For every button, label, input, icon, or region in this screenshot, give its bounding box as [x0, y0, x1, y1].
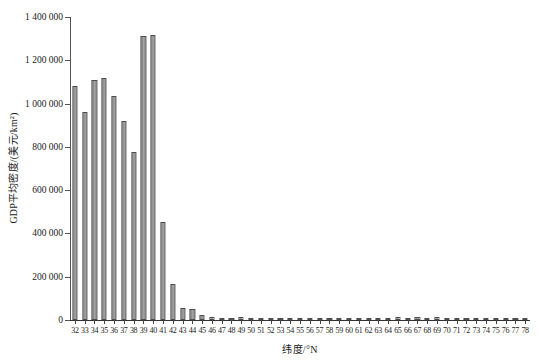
bar-slot: [139, 17, 149, 320]
x-axis-tick-label: 65: [394, 325, 401, 336]
x-axis-tick-label: 66: [404, 325, 411, 336]
x-axis-tick-label: 39: [140, 325, 147, 336]
x-axis-tick: [251, 320, 252, 324]
y-axis-tick-label: 800 000: [32, 142, 63, 152]
x-axis-tick-label: 51: [257, 325, 264, 336]
x-axis-tick-label: 56: [306, 325, 313, 336]
bar[interactable]: [170, 284, 175, 320]
bar-slot: [276, 17, 286, 320]
y-axis-tick: [65, 104, 70, 105]
bar[interactable]: [111, 96, 116, 320]
x-axis-tick: [417, 320, 418, 324]
x-axis-tick: [153, 320, 154, 324]
bar-slot: [148, 17, 158, 320]
x-axis-tick: [75, 320, 76, 324]
x-axis-tick-label: 63: [375, 325, 382, 336]
bar-slot: [334, 17, 344, 320]
y-axis-tick-label: 1 200 000: [25, 55, 63, 65]
x-axis-tick: [466, 320, 467, 324]
x-axis-tick: [104, 320, 105, 324]
x-axis-tick-label: 36: [110, 325, 117, 336]
bar[interactable]: [102, 78, 107, 320]
bar[interactable]: [92, 80, 97, 320]
x-axis-tick-label: 70: [443, 325, 450, 336]
bar[interactable]: [160, 222, 165, 320]
bar-slot: [178, 17, 188, 320]
x-axis-tick-label: 72: [463, 325, 470, 336]
y-axis-tick: [65, 60, 70, 61]
bar[interactable]: [121, 121, 126, 320]
x-axis-tick-label: 40: [149, 325, 156, 336]
bar-slot: [70, 17, 80, 320]
x-axis-tick: [212, 320, 213, 324]
x-axis-tick: [114, 320, 115, 324]
x-axis-tick-label: 43: [179, 325, 186, 336]
bar-slot: [305, 17, 315, 320]
bar[interactable]: [131, 152, 136, 320]
bar-slot: [119, 17, 129, 320]
x-axis-tick-label: 42: [169, 325, 176, 336]
bar-slot: [442, 17, 452, 320]
bar[interactable]: [180, 308, 185, 320]
y-axis-tick-label: 1 400 000: [25, 12, 63, 22]
bar[interactable]: [190, 309, 195, 320]
x-axis-tick: [271, 320, 272, 324]
x-axis-tick: [369, 320, 370, 324]
bar-slot: [422, 17, 432, 320]
x-axis-tick-label: 54: [287, 325, 294, 336]
x-axis-tick: [134, 320, 135, 324]
x-axis-tick: [222, 320, 223, 324]
bar-slot: [324, 17, 334, 320]
bar-slot: [129, 17, 139, 320]
bar[interactable]: [72, 86, 77, 320]
x-axis-tick-label: 38: [130, 325, 137, 336]
bar-slot: [315, 17, 325, 320]
bar-slot: [481, 17, 491, 320]
x-axis-tick: [124, 320, 125, 324]
x-axis-tick-labels: 3233343536373839404142434445464748495051…: [70, 325, 530, 339]
x-axis-ticks: [70, 320, 530, 324]
x-axis-tick-label: 37: [120, 325, 127, 336]
bar-slot: [403, 17, 413, 320]
x-axis-tick-label: 33: [81, 325, 88, 336]
bar[interactable]: [151, 35, 156, 320]
bar-slot: [256, 17, 266, 320]
x-axis-tick: [388, 320, 389, 324]
x-axis-tick: [378, 320, 379, 324]
bar-slot: [99, 17, 109, 320]
bar-slot: [344, 17, 354, 320]
x-axis-tick: [280, 320, 281, 324]
x-axis-tick: [85, 320, 86, 324]
x-axis-tick-label: 78: [521, 325, 528, 336]
x-axis-tick-label: 52: [267, 325, 274, 336]
bar-slot: [90, 17, 100, 320]
bar[interactable]: [141, 36, 146, 320]
bar-slot: [207, 17, 217, 320]
x-axis-tick-label: 67: [414, 325, 421, 336]
x-axis-tick-label: 77: [512, 325, 519, 336]
x-axis-tick: [163, 320, 164, 324]
bar-slot: [461, 17, 471, 320]
x-axis-tick: [349, 320, 350, 324]
y-axis-tick: [65, 277, 70, 278]
bar-slot: [158, 17, 168, 320]
x-axis-tick-label: 59: [335, 325, 342, 336]
x-axis-tick-label: 34: [91, 325, 98, 336]
x-axis-tick: [202, 320, 203, 324]
bar-slot: [285, 17, 295, 320]
chart-figure: GDP平均密度/(美元/km²) 0200 000400 000600 0008…: [0, 0, 539, 362]
bar-slot: [187, 17, 197, 320]
bar-slot: [413, 17, 423, 320]
x-axis-tick: [525, 320, 526, 324]
x-axis-tick: [192, 320, 193, 324]
bar[interactable]: [82, 112, 87, 320]
bar-slot: [452, 17, 462, 320]
bar-slot: [246, 17, 256, 320]
y-axis-tick-labels: 0200 000400 000600 000800 0001 000 0001 …: [0, 0, 70, 362]
bar-slot: [383, 17, 393, 320]
x-axis-tick: [290, 320, 291, 324]
bar-slot: [80, 17, 90, 320]
y-axis-tick: [65, 233, 70, 234]
x-axis-tick-label: 57: [316, 325, 323, 336]
bar-slot: [227, 17, 237, 320]
